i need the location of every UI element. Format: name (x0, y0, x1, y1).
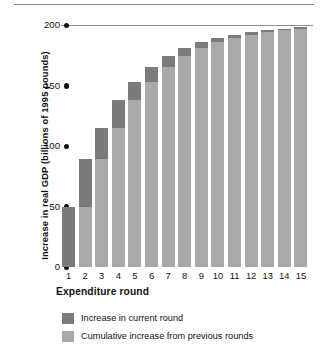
bar-round-8 (178, 48, 191, 267)
bar-segment-cumulative (228, 38, 241, 267)
bar-segment-current-round (178, 48, 191, 56)
bar-segment-cumulative (261, 32, 274, 267)
y-axis-tick-100: 100 (22, 140, 60, 152)
bar-round-6 (145, 67, 158, 267)
y-axis-tick-150: 150 (22, 80, 60, 92)
bar-segment-current-round (62, 207, 75, 268)
legend-label: Cumulative increase from previous rounds (81, 331, 253, 341)
bar-round-11 (228, 35, 241, 267)
bar-round-5 (128, 82, 141, 267)
x-axis-tick-label-11: 11 (227, 270, 243, 281)
bar-round-15 (294, 27, 307, 267)
y-axis-tick-label: 100 (44, 140, 60, 151)
bar-segment-cumulative (128, 100, 141, 267)
bar-round-2 (79, 159, 92, 267)
y-axis-tick-label: 150 (44, 80, 60, 91)
x-axis-tick-label-3: 3 (94, 270, 110, 281)
bar-segment-current-round (112, 100, 125, 128)
bar-segment-current-round (95, 128, 108, 159)
bar-segment-cumulative (112, 128, 125, 267)
bar-segment-current-round (128, 82, 141, 100)
bar-round-12 (245, 32, 258, 267)
chart-legend: Increase in current roundCumulative incr… (62, 310, 317, 346)
x-axis-tick-label-7: 7 (160, 270, 176, 281)
bar-segment-cumulative (162, 67, 175, 267)
x-axis-tick-label-5: 5 (127, 270, 143, 281)
bar-round-7 (162, 56, 175, 267)
bar-segment-cumulative (145, 82, 158, 267)
legend-label: Increase in current round (81, 313, 183, 323)
legend-item-2: Cumulative increase from previous rounds (62, 328, 317, 344)
bar-segment-cumulative (195, 48, 208, 267)
bar-segment-cumulative (278, 30, 291, 267)
legend-item-1: Increase in current round (62, 310, 317, 326)
y-axis-tick-200: 200 (22, 19, 60, 31)
x-axis-tick-label-4: 4 (110, 270, 126, 281)
y-axis-tick-0: 0 (22, 261, 60, 273)
y-axis-tick-50: 50 (22, 201, 60, 213)
x-axis-tick-label-8: 8 (177, 270, 193, 281)
chart-figure: Increase in real GDP (billions of 1995 p… (0, 0, 324, 351)
bar-segment-cumulative (211, 42, 224, 267)
bar-round-9 (195, 42, 208, 267)
x-axis-tick-label-10: 10 (210, 270, 226, 281)
x-axis-tick-label-12: 12 (243, 270, 259, 281)
bar-segment-current-round (79, 159, 92, 206)
x-axis-tick-label-15: 15 (293, 270, 309, 281)
bar-round-3 (95, 128, 108, 267)
bar-segment-cumulative (95, 159, 108, 267)
y-axis-tick-label: 200 (44, 19, 60, 30)
x-axis-tick-label-13: 13 (260, 270, 276, 281)
bar-segment-cumulative (178, 56, 191, 267)
x-axis-tick-label-2: 2 (77, 270, 93, 281)
bar-round-14 (278, 29, 291, 267)
bar-segment-cumulative (294, 29, 307, 267)
bar-round-1 (62, 207, 75, 268)
bar-round-10 (211, 38, 224, 267)
x-axis-tick-label-1: 1 (61, 270, 77, 281)
x-axis-title: Expenditure round (56, 286, 149, 297)
bar-segment-current-round (145, 67, 158, 82)
legend-swatch (62, 331, 74, 342)
bar-segment-current-round (162, 56, 175, 67)
bar-segment-cumulative (245, 35, 258, 267)
x-axis-tick-label-9: 9 (193, 270, 209, 281)
top-divider-rule (14, 4, 314, 5)
bar-round-4 (112, 100, 125, 267)
x-axis-tick-label-14: 14 (276, 270, 292, 281)
bar-round-13 (261, 30, 274, 267)
legend-swatch (62, 313, 74, 324)
plot-area (62, 25, 310, 267)
y-axis-tick-label: 50 (49, 201, 60, 212)
y-axis-title: Increase in real GDP (billions of 1995 p… (39, 41, 50, 271)
bar-segment-cumulative (79, 207, 92, 268)
y-axis-tick-label: 0 (55, 261, 60, 272)
x-axis-tick-label-6: 6 (144, 270, 160, 281)
